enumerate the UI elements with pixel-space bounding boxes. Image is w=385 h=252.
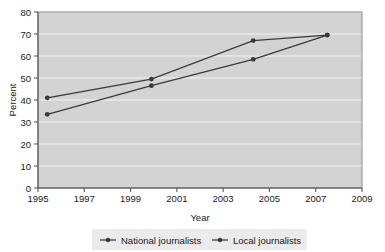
y-axis-title: Percent bbox=[7, 83, 18, 116]
chart-canvas: 80 70 60 50 40 30 20 10 0 1995 1997 1999 bbox=[0, 0, 385, 252]
y-axis-ticks bbox=[34, 12, 38, 188]
x-tick-label: 2009 bbox=[351, 193, 372, 204]
y-tick-label: 0 bbox=[26, 183, 31, 194]
x-axis-title: Year bbox=[190, 212, 209, 223]
data-point-marker bbox=[325, 33, 330, 38]
legend-label: National journalists bbox=[121, 235, 202, 246]
y-tick-label: 50 bbox=[20, 73, 31, 84]
legend-marker-icon bbox=[218, 238, 223, 243]
x-tick-label: 2005 bbox=[259, 193, 280, 204]
x-tick-label: 2007 bbox=[305, 193, 326, 204]
data-point-marker bbox=[251, 38, 256, 43]
y-tick-label: 60 bbox=[20, 51, 31, 62]
legend-marker-icon bbox=[106, 238, 111, 243]
line-chart: 80 70 60 50 40 30 20 10 0 1995 1997 1999 bbox=[0, 0, 385, 252]
y-tick-label: 40 bbox=[20, 95, 31, 106]
data-point-marker bbox=[251, 57, 256, 62]
x-tick-label: 1999 bbox=[120, 193, 141, 204]
x-tick-label: 1995 bbox=[27, 193, 48, 204]
data-point-marker bbox=[149, 77, 154, 82]
legend-label: Local journalists bbox=[233, 235, 301, 246]
data-point-marker bbox=[149, 83, 154, 88]
x-axis-ticks bbox=[38, 188, 362, 192]
x-tick-label: 2001 bbox=[166, 193, 187, 204]
data-point-marker bbox=[45, 112, 50, 117]
y-tick-label: 30 bbox=[20, 117, 31, 128]
x-tick-label: 2003 bbox=[213, 193, 234, 204]
y-axis-tick-labels: 80 70 60 50 40 30 20 10 0 bbox=[20, 7, 31, 194]
y-tick-label: 20 bbox=[20, 139, 31, 150]
y-tick-label: 80 bbox=[20, 7, 31, 18]
data-point-marker bbox=[45, 95, 50, 100]
x-axis-tick-labels: 1995 1997 1999 2001 2003 2005 2007 2009 bbox=[27, 193, 372, 204]
y-tick-label: 70 bbox=[20, 29, 31, 40]
legend: National journalists Local journalists bbox=[100, 235, 301, 246]
y-tick-label: 10 bbox=[20, 161, 31, 172]
x-tick-label: 1997 bbox=[74, 193, 95, 204]
